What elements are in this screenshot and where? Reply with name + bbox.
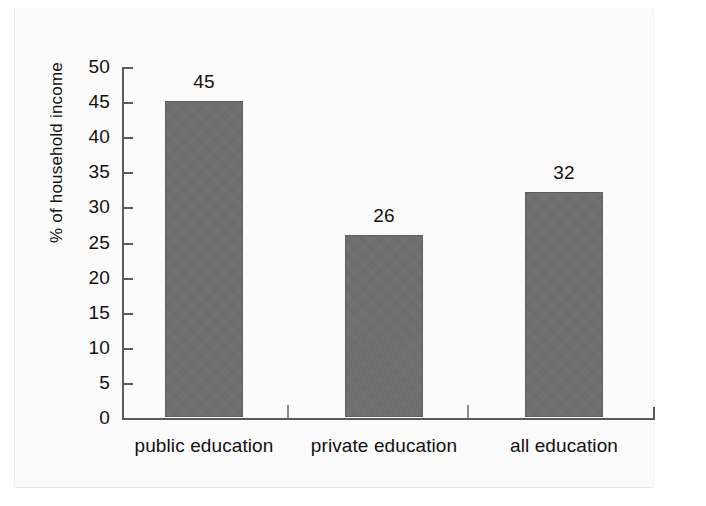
y-tick-mark xyxy=(124,172,133,174)
bar-chart-figure: % of household income 0 5 10 15 20 25 xyxy=(0,0,706,506)
y-tick-label: 50 xyxy=(88,56,110,78)
y-tick-mark xyxy=(124,243,133,245)
bar-value-label: 45 xyxy=(193,71,215,93)
bar-value-label: 26 xyxy=(373,205,395,227)
bar-private-education[interactable]: 26 xyxy=(345,235,423,418)
y-tick-mark xyxy=(124,137,133,139)
y-tick-label: 20 xyxy=(88,267,110,289)
y-tick-mark xyxy=(124,348,133,350)
y-axis-title: % of household income xyxy=(47,62,67,243)
y-tick-label: 35 xyxy=(88,161,110,183)
bar-public-education[interactable]: 45 xyxy=(165,101,243,417)
y-tick-mark xyxy=(124,67,133,69)
y-tick-15: 15 xyxy=(122,313,133,315)
x-axis-category-label-all-education: all education xyxy=(484,435,644,457)
category-separator-1 xyxy=(287,405,289,418)
y-tick-mark xyxy=(124,102,133,104)
plot-area: 0 5 10 15 20 25 30 35 xyxy=(122,67,655,418)
y-tick-label: 30 xyxy=(88,196,110,218)
y-tick-mark xyxy=(124,418,133,420)
y-tick-40: 40 xyxy=(122,137,133,139)
scan-edge-bottom xyxy=(14,487,654,488)
y-tick-mark xyxy=(124,207,133,209)
y-tick-20: 20 xyxy=(122,278,133,280)
x-axis-category-label-public-education: public education xyxy=(124,435,284,457)
bar-value-label: 32 xyxy=(553,162,575,184)
y-tick-10: 10 xyxy=(122,348,133,350)
y-tick-mark xyxy=(124,278,133,280)
y-tick-label: 40 xyxy=(88,126,110,148)
scan-edge-left xyxy=(14,8,15,488)
x-axis-end-tick xyxy=(653,407,655,419)
bar-all-education[interactable]: 32 xyxy=(525,192,603,417)
y-tick-5: 5 xyxy=(122,383,133,385)
y-tick-label: 15 xyxy=(88,302,110,324)
y-tick-label: 10 xyxy=(88,337,110,359)
y-tick-label: 45 xyxy=(88,91,110,113)
x-axis-category-label-private-education: private education xyxy=(304,435,464,457)
x-axis-line xyxy=(122,418,655,420)
y-tick-mark xyxy=(124,383,133,385)
y-tick-25: 25 xyxy=(122,243,133,245)
y-tick-0: 0 xyxy=(122,418,133,420)
y-tick-45: 45 xyxy=(122,102,133,104)
y-tick-label: 25 xyxy=(88,232,110,254)
y-tick-label: 5 xyxy=(99,372,110,394)
y-tick-label: 0 xyxy=(99,407,110,429)
y-tick-30: 30 xyxy=(122,207,133,209)
y-tick-mark xyxy=(124,313,133,315)
category-separator-2 xyxy=(467,405,469,418)
y-tick-50: 50 xyxy=(122,67,133,69)
y-tick-35: 35 xyxy=(122,172,133,174)
